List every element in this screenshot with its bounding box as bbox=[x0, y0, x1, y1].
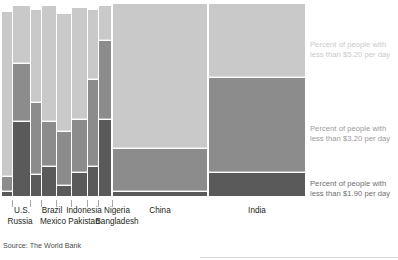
bar-brazil bbox=[42, 0, 56, 200]
legend-label-s520: Percent of people with less than $5.20 p… bbox=[310, 40, 390, 59]
segment-s190 bbox=[13, 122, 30, 196]
axis-label-brazil: Brazil bbox=[42, 206, 62, 216]
segment-s190 bbox=[2, 192, 12, 196]
axis-label-russia: Russia bbox=[7, 217, 32, 227]
axis-label-nigeria: Nigeria bbox=[104, 206, 130, 216]
segment-s190 bbox=[88, 167, 98, 196]
mosaic-chart bbox=[0, 0, 398, 200]
axis-label-us: U.S. bbox=[14, 206, 30, 216]
axis-tick bbox=[12, 200, 13, 207]
segment-s190 bbox=[99, 120, 111, 196]
bar-us bbox=[13, 0, 30, 200]
segment-s520 bbox=[2, 12, 12, 196]
source-note: Source: The World Bank bbox=[3, 241, 81, 250]
legend-label-s320: Percent of people with less than $3.20 p… bbox=[310, 124, 390, 143]
segment-s190 bbox=[72, 173, 87, 196]
axis-label-mexico: Mexico bbox=[40, 217, 66, 227]
category-axis: RussiaU.S.MexicoBrazilPakistanIndonesiaB… bbox=[0, 200, 398, 234]
segment-s190 bbox=[113, 192, 207, 196]
segment-s190 bbox=[42, 167, 56, 196]
bar-pakistan bbox=[57, 0, 71, 200]
axis-label-china: China bbox=[149, 206, 170, 216]
bottom-divider bbox=[200, 257, 398, 258]
axis-tick bbox=[30, 200, 31, 207]
bar-nigeria bbox=[99, 0, 111, 200]
segment-s190 bbox=[57, 186, 71, 196]
bar-indonesia bbox=[72, 0, 87, 200]
bar-mexico bbox=[31, 0, 41, 200]
segment-s190 bbox=[31, 175, 41, 196]
axis-label-indonesia: Indonesia bbox=[66, 206, 102, 216]
segment-s320 bbox=[113, 149, 207, 196]
legend-label-s190: Percent of people with less than $1.90 p… bbox=[310, 179, 390, 198]
axis-label-bangladesh: Bangladesh bbox=[95, 217, 138, 227]
bar-russia bbox=[2, 0, 12, 200]
axis-label-india: India bbox=[248, 206, 266, 216]
bar-bangladesh bbox=[88, 0, 98, 200]
bar-india bbox=[209, 0, 305, 200]
segment-s190 bbox=[209, 173, 305, 196]
bar-china bbox=[113, 0, 207, 200]
